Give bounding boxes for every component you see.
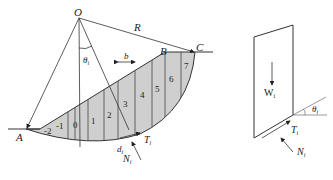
label-theta-right: θi bbox=[312, 104, 318, 115]
theta-arc-right bbox=[303, 109, 305, 115]
label-A: A bbox=[15, 131, 23, 143]
label-O: O bbox=[74, 6, 82, 18]
slope-stability-diagram: O R B C A θi b di Ti Ni -2 -1 0 1 2 3 4 … bbox=[0, 0, 333, 180]
slice-label: -1 bbox=[56, 121, 64, 131]
label-R: R bbox=[133, 21, 141, 33]
label-T-right: Ti bbox=[291, 124, 299, 136]
label-theta: θi bbox=[83, 55, 89, 66]
label-b: b bbox=[124, 51, 129, 61]
label-N-right: Ni bbox=[296, 146, 306, 158]
label-C: C bbox=[196, 41, 204, 53]
slice-label: 6 bbox=[169, 74, 174, 84]
slice-label: 0 bbox=[73, 120, 78, 130]
label-B: B bbox=[160, 45, 167, 57]
label-W: Wi bbox=[264, 87, 275, 99]
slice-label: 1 bbox=[91, 116, 96, 126]
slope-ref bbox=[293, 97, 326, 115]
label-T: Ti bbox=[144, 134, 152, 146]
N-arrow bbox=[132, 142, 141, 160]
slice-label: 7 bbox=[184, 61, 189, 71]
T-arrow-right bbox=[262, 121, 290, 138]
label-N: Ni bbox=[122, 153, 132, 165]
N-arrow-right bbox=[281, 138, 293, 152]
slice-label: 5 bbox=[155, 84, 160, 94]
slice-label: 4 bbox=[140, 90, 145, 100]
slice-label: 2 bbox=[107, 110, 112, 120]
slice-label: -2 bbox=[44, 126, 52, 136]
slice-label: 3 bbox=[123, 99, 128, 109]
theta-arc bbox=[79, 46, 92, 49]
